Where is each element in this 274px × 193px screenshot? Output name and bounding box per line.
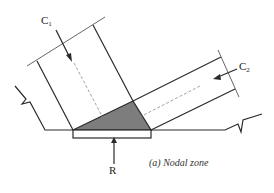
r-arrow-icon [111,137,117,164]
caption: (a) Nodal zone [149,157,209,169]
c2-arrow-icon [213,69,237,80]
nodal-zone-diagram: C1 C2 R (a) Nodal zone [0,0,274,193]
label-c1: C1 [41,14,52,28]
strut-c2-centerline [140,86,200,117]
label-c2: C2 [239,60,250,74]
strut-c2 [133,50,239,130]
bearing-plate [73,130,151,138]
nodal-zone-triangle [73,101,151,130]
strut-c1-centerline [74,63,103,118]
label-r: R [109,164,117,176]
